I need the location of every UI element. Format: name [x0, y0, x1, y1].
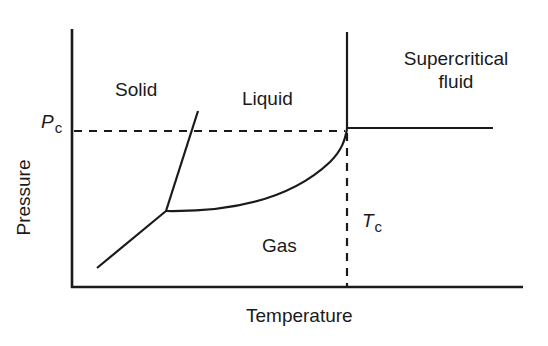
- critical-temperature-subscript: c: [375, 218, 383, 235]
- critical-pressure-symbol: P: [41, 111, 54, 132]
- supercritical-line-2: fluid: [380, 70, 532, 93]
- sublimation-curve: [97, 211, 166, 268]
- critical-pressure-subscript: c: [55, 119, 63, 136]
- critical-temperature-symbol: T: [362, 210, 374, 231]
- melting-curve: [166, 111, 198, 211]
- critical-temperature-label: Tc: [362, 211, 382, 234]
- x-axis-label: Temperature: [246, 306, 353, 325]
- supercritical-line-1: Supercritical: [380, 47, 532, 70]
- critical-pressure-label: Pc: [41, 112, 62, 135]
- region-label-supercritical-fluid: Supercritical fluid: [380, 47, 532, 93]
- region-label-gas: Gas: [262, 236, 297, 255]
- vaporization-curve: [166, 129, 347, 211]
- region-label-liquid: Liquid: [242, 89, 293, 108]
- y-axis-label: Pressure: [14, 148, 33, 248]
- region-label-solid: Solid: [115, 80, 157, 99]
